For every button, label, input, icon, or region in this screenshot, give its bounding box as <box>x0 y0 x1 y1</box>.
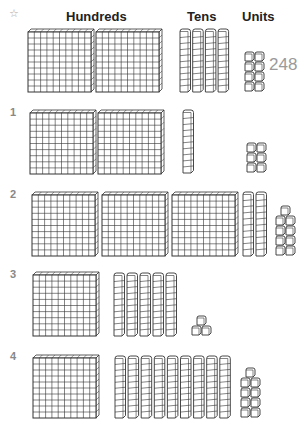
unit-cube <box>251 408 260 417</box>
unit-cube <box>245 52 254 61</box>
ten-rod <box>207 356 218 418</box>
unit-cube <box>241 378 250 387</box>
ten-rod <box>220 356 231 418</box>
unit-cube <box>241 408 250 417</box>
hundred-flat <box>172 192 238 256</box>
unit-cube <box>247 163 256 172</box>
ten-rod <box>140 273 151 336</box>
unit-cube <box>257 153 266 162</box>
unit-cube <box>257 143 266 152</box>
unit-cube <box>255 62 264 71</box>
unit-cube <box>286 246 295 255</box>
ten-rod <box>256 192 267 256</box>
unit-cube <box>276 236 285 245</box>
hundred-flat <box>30 110 96 174</box>
unit-cube <box>202 326 211 335</box>
hundred-flat <box>33 272 99 336</box>
unit-cube <box>251 388 260 397</box>
ten-rod <box>181 356 192 418</box>
ten-rod <box>141 356 152 418</box>
hundred-flat <box>32 192 98 256</box>
unit-cube <box>245 72 254 81</box>
ten-rod <box>128 356 139 418</box>
unit-cube <box>276 216 285 225</box>
unit-cube <box>245 82 254 91</box>
ten-rod <box>167 356 178 418</box>
unit-cube <box>286 216 295 225</box>
unit-cube <box>241 398 250 407</box>
ten-rod <box>193 29 204 92</box>
unit-cube <box>281 206 290 215</box>
unit-cube <box>247 143 256 152</box>
unit-cube <box>276 246 285 255</box>
hundred-flat <box>33 355 99 418</box>
ten-rod <box>218 29 229 92</box>
unit-cube <box>192 326 201 335</box>
ten-rod <box>180 29 191 92</box>
unit-cube <box>241 388 250 397</box>
ten-rod <box>194 356 205 418</box>
unit-cube <box>251 378 260 387</box>
unit-cube <box>247 153 256 162</box>
unit-cube <box>197 316 206 325</box>
base-ten-blocks-diagram <box>0 0 301 422</box>
unit-cube <box>246 368 255 377</box>
ten-rod <box>183 110 194 173</box>
hundred-flat <box>98 110 164 174</box>
ten-rod <box>154 356 165 418</box>
ten-rod <box>166 273 177 336</box>
ten-rod <box>114 273 125 336</box>
unit-cube <box>255 82 264 91</box>
hundred-flat <box>28 29 94 92</box>
unit-cube <box>245 62 254 71</box>
ten-rod <box>205 29 216 92</box>
ten-rod <box>153 273 164 336</box>
unit-cube <box>255 72 264 81</box>
unit-cube <box>251 398 260 407</box>
unit-cube <box>255 52 264 61</box>
ten-rod <box>127 273 138 336</box>
unit-cube <box>257 163 266 172</box>
unit-cube <box>286 236 295 245</box>
hundred-flat <box>102 192 168 256</box>
unit-cube <box>276 226 285 235</box>
ten-rod <box>243 192 254 256</box>
hundred-flat <box>96 29 162 92</box>
unit-cube <box>286 226 295 235</box>
ten-rod <box>115 356 126 418</box>
